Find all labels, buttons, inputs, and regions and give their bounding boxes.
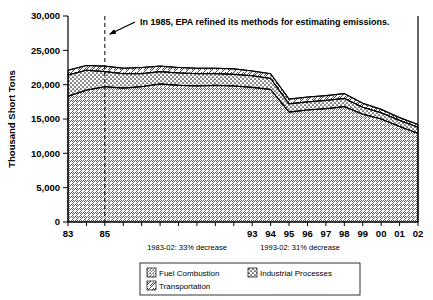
legend-swatch-coarse-diagonal [147,281,156,290]
chart-footnote: 1983-02: 33% decrease [147,243,227,252]
chart-legend: Fuel CombustionIndustrial ProcessesTrans… [140,263,360,295]
x-axis-tick-label: 98 [339,228,350,239]
x-axis-tick-label: 97 [321,228,332,239]
y-axis-tick-label: 30,000 [31,10,60,21]
x-axis-tick-label: 00 [376,228,387,239]
x-axis-tick-label: 93 [247,228,258,239]
legend-swatch-fine-diagonal-hatch [147,268,156,277]
legend-item[interactable]: Fuel Combustion [147,268,219,278]
plot-area [68,65,418,222]
annotation-arrow-icon [110,22,135,34]
y-axis-tick-label: 10,000 [31,148,60,159]
y-axis-tick-label: 20,000 [31,79,60,90]
x-axis-tick-label: 85 [100,228,111,239]
legend-label: Fuel Combustion [159,269,219,278]
legend-label: Industrial Processes [260,269,332,278]
legend-swatch-dotted [248,268,257,277]
legend-label: Transportation [159,282,210,291]
y-axis-tick-label: 0 [55,216,60,227]
chart-container: In 1985, EPA refined its methods for est… [0,0,433,300]
x-axis-tick-label: 83 [63,228,74,239]
x-axis-tick-label: 02 [413,228,424,239]
x-axis-tick-label: 96 [302,228,313,239]
epa-annotation-text: In 1985, EPA refined its methods for est… [140,17,390,27]
y-axis-tick-label: 15,000 [31,113,60,124]
y-axis-tick-label: 5,000 [36,182,60,193]
emissions-stacked-area-chart: In 1985, EPA refined its methods for est… [0,0,433,300]
x-axis-tick-label: 94 [265,228,276,239]
x-axis-tick-label: 01 [394,228,405,239]
legend-item[interactable]: Industrial Processes [248,268,332,278]
chart-footnote: 1993-02: 31% decrease [260,243,340,252]
x-axis-tick-label: 95 [284,228,295,239]
y-axis-title: Thousand Short Tons [6,70,17,167]
legend-item[interactable]: Transportation [147,281,210,291]
x-axis-tick-label: 99 [357,228,368,239]
y-axis-tick-label: 25,000 [31,45,60,56]
